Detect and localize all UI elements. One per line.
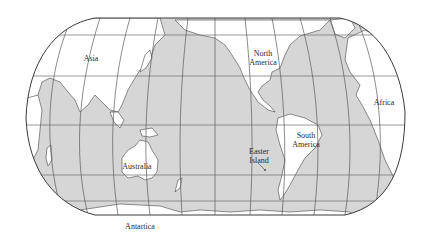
label-south-america: South America — [292, 131, 320, 149]
label-africa-text: Africa — [374, 98, 394, 107]
label-easter-island: Easter Island — [249, 147, 269, 165]
label-south-america-line2: America — [292, 140, 320, 149]
world-map — [0, 0, 427, 247]
label-north-america-line1: North — [249, 49, 277, 58]
label-asia: Asia — [84, 54, 99, 63]
label-africa: Africa — [374, 98, 394, 107]
label-easter-island-line1: Easter — [249, 147, 269, 156]
label-south-america-line1: South — [292, 131, 320, 140]
label-antartica-text: Antartica — [125, 222, 155, 231]
label-easter-island-line2: Island — [249, 156, 269, 165]
label-australia: Australia — [122, 162, 151, 171]
label-australia-text: Australia — [122, 162, 151, 171]
label-antartica: Antartica — [125, 222, 155, 231]
label-north-america: North America — [249, 49, 277, 67]
label-north-america-line2: America — [249, 58, 277, 67]
easter-island-marker — [264, 169, 266, 171]
label-asia-text: Asia — [84, 54, 99, 63]
